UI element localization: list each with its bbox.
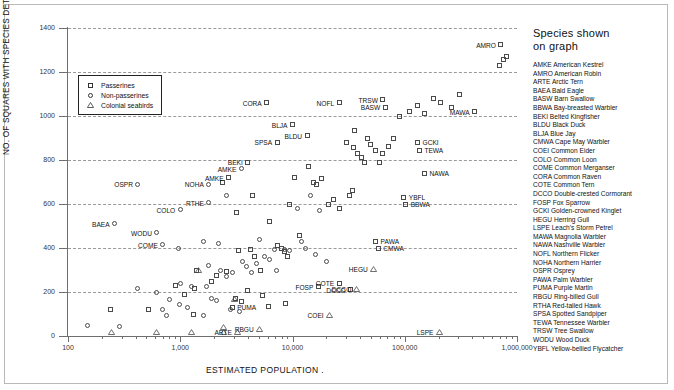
gridline [68, 292, 517, 293]
data-point-square [258, 268, 263, 273]
x-axis-tick [517, 336, 518, 342]
data-point-circle [206, 263, 211, 268]
data-point-square [306, 164, 311, 169]
data-point-square [376, 246, 381, 251]
data-point-label: LSPE [417, 328, 434, 335]
data-point-label: AMRO [476, 41, 496, 48]
data-point-square [431, 96, 436, 101]
data-point-square [326, 202, 331, 207]
species-list-item: BASW Barn Swallow [533, 95, 673, 104]
x-axis-tick [175, 336, 176, 339]
species-list-item: PAWA Palm Warbler [533, 276, 673, 285]
y-axis-tick-label: 400 [5, 244, 55, 252]
x-axis-tick-label: 100 [62, 344, 74, 351]
y-axis-line [67, 27, 68, 337]
species-list-item: GCKI Golden-crowned Kinglet [533, 207, 673, 216]
species-list-item: NAWA Nashville Warbler [533, 241, 673, 250]
data-point-square [285, 254, 290, 259]
data-point-circle [303, 246, 308, 251]
data-point-square [422, 111, 427, 116]
data-point-square [319, 176, 324, 181]
x-axis-tick [400, 336, 401, 339]
data-point-square [350, 188, 355, 193]
data-point-square [383, 105, 388, 110]
x-axis-tick [282, 336, 283, 339]
data-point-circle [218, 268, 223, 273]
data-point-circle [216, 241, 221, 246]
species-list-item: OSPR Osprey [533, 267, 673, 276]
x-axis-tick [394, 336, 395, 339]
data-point-square [417, 148, 422, 153]
data-point-label: ARTE [214, 328, 231, 335]
species-list-item: LSPE Leach's Storm Petrel [533, 224, 673, 233]
data-point-square [260, 293, 265, 298]
species-list-item: MAWA Magnolia Warbler [533, 233, 673, 242]
x-axis-tick-label: 1,000,000 [501, 344, 532, 351]
data-point-square [252, 254, 257, 259]
data-point-label: NOFL [316, 99, 334, 106]
data-point-square [191, 312, 196, 317]
species-list-item: ARTE Arctic Tern [533, 78, 673, 87]
data-point-circle [201, 313, 206, 318]
x-axis-tick [472, 336, 473, 339]
data-point-square [472, 109, 477, 114]
data-point-triangle [195, 267, 201, 272]
x-axis-tick [458, 336, 459, 339]
data-point-square [337, 100, 342, 105]
data-point-circle [185, 305, 190, 310]
legend-item-passerines: Passerines [85, 80, 153, 90]
species-list-item: PUMA Purple Martin [533, 284, 673, 293]
species-list-item: FOSP Fox Sparrow [533, 199, 673, 208]
data-point-square [283, 301, 288, 306]
species-list-item: BLDU Black Duck [533, 121, 673, 130]
data-point-circle [249, 270, 254, 275]
data-point-square [245, 288, 250, 293]
triangle-marker-icon [85, 102, 95, 108]
data-point-label: SPSA [255, 139, 273, 146]
data-point-circle [228, 307, 233, 312]
x-axis-tick [500, 336, 501, 339]
data-point-square [337, 206, 342, 211]
species-list-item: RTHA Red-tailed Hawk [533, 302, 673, 311]
x-axis-tick-label: 1,000 [171, 344, 189, 351]
y-axis-title: NO. OF SQUARES WITH SPECIES DETECTED [2, 0, 11, 155]
data-point-circle [117, 324, 122, 329]
data-point-circle [239, 166, 244, 171]
data-point-square [209, 279, 214, 284]
data-point-square [266, 304, 271, 309]
y-axis-tick-label: 200 [5, 288, 55, 296]
data-point-square [146, 307, 151, 312]
x-axis-tick [387, 336, 388, 339]
data-point-circle [230, 270, 235, 275]
species-list-item: BBWA Bay-breasted Warbler [533, 104, 673, 113]
y-axis-tick [59, 72, 67, 73]
data-point-square [331, 197, 336, 202]
species-list-item: YBFL Yellow-bellied Flycatcher [533, 345, 673, 354]
data-point-label: OSPR [114, 181, 133, 188]
species-list-item: BAEA Bald Eagle [533, 87, 673, 96]
data-point-square [173, 283, 178, 288]
x-axis-tick [268, 336, 269, 339]
legend-item-non-passerines: Non-passerines [85, 90, 153, 100]
species-list-item: CMWA Cape May Warbler [533, 138, 673, 147]
x-axis-tick [287, 336, 288, 339]
data-point-square [248, 247, 253, 252]
data-point-square [422, 171, 427, 176]
x-axis-tick [380, 336, 381, 339]
data-point-square [245, 160, 250, 165]
data-point-circle [257, 237, 262, 242]
data-point-square [397, 114, 402, 119]
data-point-circle [299, 239, 304, 244]
data-point-square [314, 182, 319, 187]
data-point-label: AMKE [205, 174, 224, 181]
data-point-circle [272, 247, 277, 252]
data-point-triangle [188, 329, 194, 334]
x-axis-title: ESTIMATED POPULATION . [5, 365, 525, 375]
data-point-square [373, 239, 378, 244]
data-point-circle [201, 239, 206, 244]
data-point-label: NAWA [430, 170, 449, 177]
data-point-circle [254, 261, 259, 266]
data-point-label: BAEA [92, 220, 110, 227]
data-point-triangle [231, 296, 237, 301]
data-point-square [386, 144, 391, 149]
